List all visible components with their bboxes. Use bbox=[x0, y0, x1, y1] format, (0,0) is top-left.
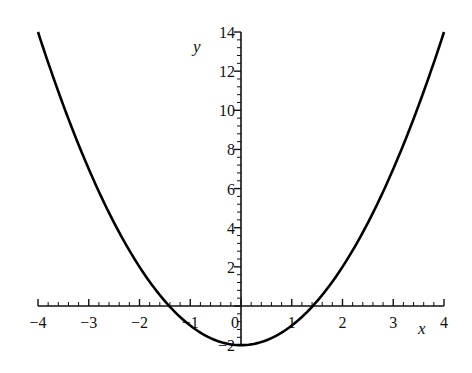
y-tick-label: 12 bbox=[219, 63, 235, 80]
x-tick-label: 4 bbox=[440, 314, 448, 331]
x-tick-label: −3 bbox=[80, 314, 97, 331]
x-axis-label: x bbox=[417, 319, 426, 338]
y-axis-ticks bbox=[234, 32, 241, 345]
y-axis-label: y bbox=[191, 37, 201, 56]
y-tick-label: 2 bbox=[227, 259, 235, 276]
y-tick-label: 4 bbox=[227, 220, 235, 237]
x-axis-ticks bbox=[38, 299, 444, 306]
y-tick-label: 14 bbox=[219, 24, 235, 41]
plot-area: −4−3−2−101234 −22468101214 x y bbox=[0, 0, 472, 373]
x-tick-label: 2 bbox=[339, 314, 347, 331]
y-tick-label: 8 bbox=[227, 141, 235, 158]
x-tick-label: −4 bbox=[29, 314, 46, 331]
x-tick-label: −2 bbox=[131, 314, 148, 331]
x-tick-label: 3 bbox=[389, 314, 397, 331]
y-tick-label: 6 bbox=[227, 181, 235, 198]
x-tick-label: 0 bbox=[231, 314, 239, 331]
y-tick-label: 10 bbox=[219, 102, 235, 119]
x-axis-tick-labels: −4−3−2−101234 bbox=[29, 314, 448, 331]
